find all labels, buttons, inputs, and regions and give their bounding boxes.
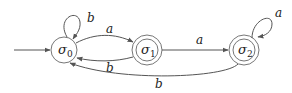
- edge-s1-s0: [77, 57, 133, 61]
- state-s1: σ1: [132, 35, 162, 65]
- label-loop-s0: b: [87, 11, 95, 25]
- label-s2-s0: b: [155, 77, 163, 91]
- label-s1-s2: a: [196, 33, 203, 47]
- label-loop-s2: a: [275, 6, 282, 20]
- loop-s2: [252, 18, 272, 38]
- label-s0-s1: a: [106, 22, 113, 36]
- automaton-diagram: σ0 σ1 σ2 b a b a a b: [0, 0, 292, 93]
- state-s2: σ2: [229, 35, 259, 65]
- edge-s2-s0: [70, 63, 238, 76]
- edge-s0-s1: [76, 35, 133, 43]
- loop-s0: [64, 15, 80, 39]
- state-s0: σ0: [51, 37, 77, 63]
